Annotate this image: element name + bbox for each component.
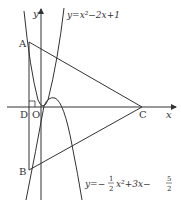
parabola-2-equation: y=− 1 2 x²+3x− 5 2 [84, 175, 172, 193]
svg-text:y=−: y=− [84, 179, 105, 189]
origin-label: O [32, 109, 40, 120]
right-angle-marker [29, 101, 35, 107]
svg-text:5: 5 [167, 175, 171, 183]
x-axis-label: x [166, 109, 172, 120]
y-axis-label: y [32, 8, 39, 19]
svg-text:2: 2 [109, 185, 113, 193]
point-d-label: D [20, 109, 28, 120]
line-bc [29, 107, 142, 170]
parabola-1-curve [24, 8, 64, 106]
svg-text:x²+3x−: x²+3x− [116, 179, 151, 189]
svg-text:1: 1 [109, 175, 113, 183]
point-c-label: C [139, 109, 147, 120]
svg-text:2: 2 [167, 185, 171, 193]
parabola-1-equation: y=x²−2x+1 [66, 10, 120, 20]
point-b-label: B [19, 166, 26, 177]
math-diagram: A B C D O x y y=x²−2x+1 y=− 1 2 x²+3x− 5… [0, 0, 181, 204]
line-ac [29, 42, 142, 107]
point-a-label: A [18, 38, 27, 49]
